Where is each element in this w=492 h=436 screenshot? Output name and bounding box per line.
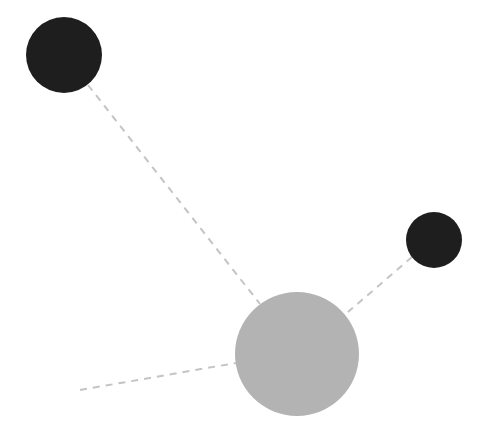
node-right — [406, 212, 462, 268]
node-center — [235, 292, 359, 416]
node-link-diagram — [0, 0, 492, 436]
node-top-left — [26, 17, 102, 93]
